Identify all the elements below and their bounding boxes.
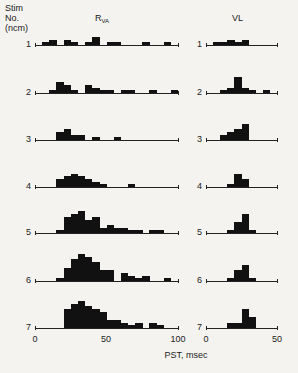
vl-axis-7: [206, 328, 277, 329]
rva-histogram-bar: [135, 323, 142, 328]
vl-axis-tick: [277, 91, 278, 95]
rva-axis-tick: [35, 43, 36, 47]
left-tick-50: 50: [101, 334, 111, 344]
rva-row-label-2: 2: [21, 87, 31, 97]
rva-histogram-bar: [71, 90, 78, 93]
rva-histogram-bar: [128, 184, 135, 187]
vl-histogram-bar: [242, 124, 249, 140]
right-tick-50: 50: [272, 334, 282, 344]
right-panel-title: VL: [232, 13, 243, 23]
vl-axis-tick: [206, 231, 207, 235]
rva-axis-tick: [178, 185, 179, 189]
rva-row-label-4: 4: [21, 181, 31, 191]
vl-axis-tick: [277, 138, 278, 142]
rva-histogram-bar: [142, 276, 149, 281]
left-panel-title: RVA: [95, 13, 109, 24]
rva-axis-tick: [35, 231, 36, 235]
vl-axis-2: [206, 93, 277, 94]
stim-label-line1: Stim: [5, 3, 23, 13]
rva-axis-tick: [178, 279, 179, 283]
left-title-sub: VA: [102, 18, 110, 24]
rva-histogram-bar: [149, 90, 156, 93]
vl-row-label-3: 3: [192, 134, 202, 144]
vl-axis-3: [206, 140, 277, 141]
rva-axis-tick: [178, 138, 179, 142]
rva-histogram-bar: [107, 270, 114, 281]
vl-row-label-4: 4: [192, 181, 202, 191]
rva-histogram-bar: [99, 184, 106, 187]
vl-row-label-5: 5: [192, 227, 202, 237]
vl-axis-1: [206, 45, 277, 46]
rva-row-label-6: 6: [21, 275, 31, 285]
rva-axis-tick: [35, 326, 36, 330]
rva-row-label-1: 1: [21, 39, 31, 49]
rva-axis-4: [35, 187, 178, 188]
rva-row-label-5: 5: [21, 227, 31, 237]
vl-axis-tick: [206, 138, 207, 142]
rva-axis-tick: [35, 185, 36, 189]
vl-axis-tick: [277, 43, 278, 47]
vl-histogram-bar: [242, 179, 249, 187]
rva-axis-5: [35, 233, 178, 234]
rva-histogram-bar: [71, 42, 78, 45]
rva-axis-2: [35, 93, 178, 94]
vl-histogram-bar: [249, 90, 256, 93]
x-axis-label: PST, msec: [164, 350, 207, 360]
rva-row-label-3: 3: [21, 134, 31, 144]
rva-histogram-bar: [128, 90, 135, 93]
vl-row-label-2: 2: [192, 87, 202, 97]
vl-axis-tick: [277, 279, 278, 283]
vl-axis-4: [206, 187, 277, 188]
vl-histogram-bar: [249, 278, 256, 281]
rva-histogram-bar: [114, 137, 121, 140]
rva-histogram-bar: [142, 42, 149, 45]
vl-axis-tick: [206, 326, 207, 330]
right-tick-0: 0: [203, 334, 208, 344]
rva-axis-7: [35, 328, 178, 329]
rva-histogram-bar: [78, 135, 85, 140]
rva-histogram-bar: [92, 137, 99, 140]
stim-label-line2: No.: [5, 13, 19, 23]
rva-histogram-bar: [49, 40, 56, 45]
vl-row-label-6: 6: [192, 275, 202, 285]
rva-axis-6: [35, 281, 178, 282]
vl-axis-tick: [277, 185, 278, 189]
rva-axis-tick: [178, 231, 179, 235]
vl-axis-tick: [277, 231, 278, 235]
stim-label-line3: (ncm): [5, 23, 28, 33]
vl-axis-tick: [277, 326, 278, 330]
left-tick-100: 100: [170, 334, 185, 344]
rva-axis-1: [35, 45, 178, 46]
vl-axis-tick: [206, 279, 207, 283]
rva-axis-tick: [35, 279, 36, 283]
rva-histogram-bar: [164, 42, 171, 45]
rva-histogram-bar: [135, 230, 142, 233]
rva-row-label-7: 7: [21, 322, 31, 332]
vl-axis-6: [206, 281, 277, 282]
vl-histogram-bar: [242, 40, 249, 45]
rva-histogram-bar: [107, 90, 114, 93]
vl-axis-tick: [206, 185, 207, 189]
rva-axis-tick: [178, 326, 179, 330]
rva-histogram-bar: [157, 230, 164, 233]
rva-histogram-bar: [114, 42, 121, 45]
vl-histogram-bar: [249, 230, 256, 233]
vl-histogram-bar: [263, 90, 270, 93]
vl-histogram-bar: [249, 317, 256, 328]
vl-axis-tick: [206, 91, 207, 95]
vl-axis-5: [206, 233, 277, 234]
rva-histogram-bar: [92, 37, 99, 45]
rva-axis-tick: [35, 91, 36, 95]
rva-histogram-bar: [157, 325, 164, 328]
rva-axis-3: [35, 140, 178, 141]
vl-axis-tick: [206, 43, 207, 47]
rva-histogram-bar: [164, 278, 171, 281]
rva-histogram-bar: [171, 90, 178, 93]
vl-row-label-7: 7: [192, 322, 202, 332]
left-tick-0: 0: [32, 334, 37, 344]
vl-row-label-1: 1: [192, 39, 202, 49]
rva-axis-tick: [178, 43, 179, 47]
rva-axis-tick: [35, 138, 36, 142]
